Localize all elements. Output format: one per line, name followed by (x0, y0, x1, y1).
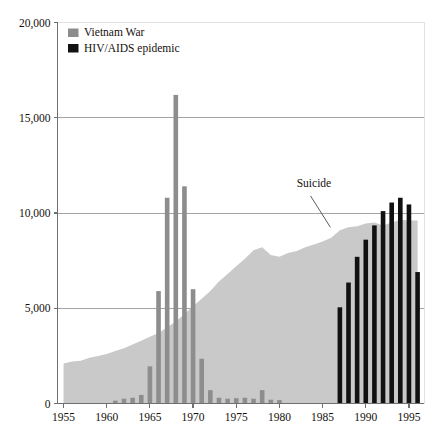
bar-hiv-aids-1996 (415, 272, 420, 403)
y-tick-label-15000: 15,000 (19, 112, 51, 125)
bar-vietnam-war-1969 (182, 186, 187, 403)
mortality-chart: 05,00010,00015,00020,0001955196019651970… (0, 0, 442, 435)
bar-vietnam-war-1974 (225, 399, 230, 404)
x-tick-label-1970: 1970 (182, 411, 205, 423)
chart-container: 05,00010,00015,00020,0001955196019651970… (0, 0, 442, 435)
bar-vietnam-war-1970 (191, 289, 196, 403)
bar-hiv-aids-1992 (381, 211, 386, 403)
x-tick-label-1960: 1960 (95, 411, 118, 423)
bar-hiv-aids-1991 (372, 225, 377, 403)
bar-vietnam-war-1966 (156, 291, 161, 403)
bar-hiv-aids-1988 (346, 283, 351, 404)
legend-label-vietnam-war: Vietnam War (84, 26, 145, 38)
legend-swatch-vietnam-war (68, 29, 79, 38)
x-tick-label-1955: 1955 (52, 411, 75, 423)
bar-vietnam-war-1972 (208, 390, 213, 403)
bar-vietnam-war-1971 (199, 359, 204, 404)
bar-hiv-aids-1995 (407, 204, 412, 403)
bar-vietnam-war-1978 (260, 390, 265, 403)
bar-hiv-aids-1987 (338, 307, 343, 403)
y-tick-label-0: 0 (45, 398, 51, 410)
bar-vietnam-war-1965 (148, 366, 153, 403)
bar-hiv-aids-1994 (398, 198, 403, 404)
bar-hiv-aids-1990 (363, 240, 368, 404)
bar-vietnam-war-1963 (130, 398, 135, 404)
bar-vietnam-war-1976 (243, 398, 248, 404)
x-tick-label-1995: 1995 (397, 411, 420, 423)
bar-vietnam-war-1962 (122, 399, 127, 404)
bar-vietnam-war-1977 (251, 399, 256, 404)
bar-hiv-aids-1989 (355, 257, 360, 404)
y-tick-label-10000: 10,000 (19, 207, 51, 220)
x-tick-label-1990: 1990 (354, 411, 377, 423)
bar-vietnam-war-1975 (234, 398, 239, 403)
bar-vietnam-war-1964 (139, 395, 144, 404)
annotation-label-suicide: Suicide (297, 177, 332, 189)
bar-vietnam-war-1973 (217, 398, 222, 404)
legend-swatch-hiv-aids (68, 44, 79, 53)
x-tick-label-1985: 1985 (311, 411, 334, 423)
y-tick-label-20000: 20,000 (19, 17, 51, 30)
x-tick-label-1980: 1980 (268, 411, 291, 423)
bar-vietnam-war-1968 (174, 95, 179, 404)
bar-hiv-aids-1993 (389, 203, 394, 404)
legend-label-hiv-aids: HIV/AIDS epidemic (84, 42, 180, 55)
x-tick-label-1975: 1975 (225, 411, 248, 423)
y-tick-label-5000: 5,000 (25, 302, 51, 315)
bar-vietnam-war-1967 (165, 198, 170, 404)
x-tick-label-1965: 1965 (138, 411, 161, 423)
